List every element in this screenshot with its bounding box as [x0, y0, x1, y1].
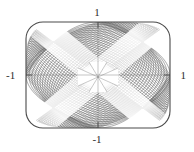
- parametric-plot-figure: 1 -1 1 -1: [0, 0, 194, 152]
- plot-canvas: [0, 0, 194, 152]
- y-axis-label-bottom: -1: [0, 134, 194, 145]
- x-axis-label-left: -1: [6, 70, 15, 81]
- y-axis-label-top: 1: [0, 7, 194, 18]
- x-axis-label-right: 1: [181, 70, 187, 81]
- plot-region: [26, 22, 170, 128]
